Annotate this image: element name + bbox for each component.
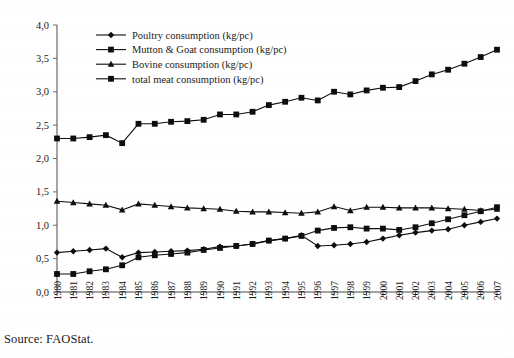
series-marker-0 — [331, 242, 337, 248]
series-marker-0 — [119, 254, 125, 260]
series-marker-1 — [396, 227, 402, 233]
series-marker-3 — [299, 95, 305, 101]
series-marker-3 — [87, 134, 93, 140]
series-marker-3 — [331, 89, 337, 95]
y-tick-label: 0,0 — [36, 287, 49, 298]
legend-label-2: Bovine consumption (kg/pc) — [132, 59, 253, 71]
series-marker-3 — [266, 102, 272, 108]
legend-label-1: Mutton & Goat consumption (kg/pc) — [132, 44, 287, 56]
x-tick-label: 1993 — [264, 281, 274, 300]
series-marker-1 — [119, 262, 125, 268]
series-marker-1 — [168, 251, 174, 257]
series-marker-1 — [347, 224, 353, 230]
legend-marker-3 — [108, 76, 114, 82]
series-marker-1 — [201, 247, 207, 253]
x-tick-label: 1982 — [85, 281, 95, 300]
x-tick-label: 1983 — [101, 281, 111, 300]
x-tick-label: 1994 — [281, 281, 291, 300]
y-tick-label: 3,5 — [36, 53, 49, 64]
series-marker-3 — [250, 109, 256, 115]
series-marker-3 — [70, 136, 76, 142]
x-tick-label: 1984 — [118, 281, 128, 300]
series-marker-3 — [494, 47, 500, 53]
x-tick-label: 1996 — [313, 281, 323, 300]
series-marker-3 — [217, 112, 223, 118]
series-marker-1 — [103, 266, 109, 272]
series-marker-3 — [282, 99, 288, 105]
series-marker-3 — [201, 117, 207, 123]
series-marker-1 — [429, 220, 435, 226]
legend-marker-1 — [108, 47, 114, 53]
series-marker-1 — [299, 233, 305, 239]
series-marker-3 — [168, 119, 174, 125]
x-tick-label: 2007 — [493, 281, 503, 300]
y-tick-label: 4,0 — [36, 20, 49, 31]
series-marker-0 — [70, 248, 76, 254]
series-marker-3 — [136, 121, 142, 127]
series-marker-0 — [445, 226, 451, 232]
x-tick-label: 1980 — [53, 281, 63, 300]
x-tick-label: 1999 — [362, 281, 372, 300]
y-tick-label: 2,5 — [36, 120, 49, 131]
series-marker-0 — [396, 232, 402, 238]
series-marker-3 — [54, 136, 60, 142]
series-marker-3 — [396, 84, 402, 90]
series-marker-1 — [217, 245, 223, 251]
series-marker-0 — [478, 219, 484, 225]
x-tick-label: 1985 — [134, 281, 144, 300]
series-marker-0 — [380, 235, 386, 241]
source-note: Source: FAOStat. — [4, 332, 94, 347]
y-tick-label: 1,0 — [36, 220, 49, 231]
series-marker-0 — [86, 247, 92, 253]
x-tick-label: 1990 — [216, 281, 226, 300]
series-marker-1 — [462, 212, 468, 218]
x-tick-label: 2003 — [427, 281, 437, 300]
series-marker-1 — [250, 241, 256, 247]
series-marker-3 — [119, 140, 125, 146]
series-marker-2 — [54, 198, 61, 204]
series-marker-3 — [413, 78, 419, 84]
line-chart: 0,00,51,01,52,02,53,03,54,01980198119821… — [0, 0, 514, 358]
x-tick-label: 1991 — [232, 281, 242, 300]
y-tick-label: 1,5 — [36, 186, 49, 197]
series-marker-1 — [364, 226, 370, 232]
x-tick-label: 1988 — [183, 281, 193, 300]
y-tick-label: 0,5 — [36, 253, 49, 264]
chart-figure: 0,00,51,01,52,02,53,03,54,01980198119821… — [0, 0, 514, 358]
series-marker-0 — [347, 241, 353, 247]
x-tick-label: 2000 — [379, 281, 389, 300]
series-marker-3 — [429, 71, 435, 77]
legend-label-0: Poultry consumption (kg/pc) — [132, 30, 253, 42]
series-marker-3 — [445, 67, 451, 73]
series-marker-1 — [413, 224, 419, 230]
series-marker-1 — [266, 238, 272, 244]
series-marker-0 — [363, 239, 369, 245]
x-tick-label: 1986 — [150, 281, 160, 300]
series-marker-0 — [461, 222, 467, 228]
series-marker-2 — [331, 203, 338, 209]
x-tick-label: 1992 — [248, 281, 258, 300]
x-tick-label: 1981 — [69, 281, 79, 300]
series-marker-3 — [233, 112, 239, 118]
legend-marker-0 — [108, 32, 114, 38]
series-marker-0 — [494, 215, 500, 221]
legend-label-3: total meat consumption (kg/pc) — [132, 74, 264, 86]
x-tick-label: 2005 — [460, 281, 470, 300]
series-marker-1 — [282, 236, 288, 242]
series-marker-0 — [315, 243, 321, 249]
series-marker-3 — [347, 92, 353, 98]
series-marker-3 — [315, 98, 321, 104]
series-marker-1 — [380, 226, 386, 232]
series-marker-3 — [462, 61, 468, 67]
x-tick-label: 1995 — [297, 281, 307, 300]
series-marker-2 — [135, 200, 142, 206]
series-marker-1 — [184, 250, 190, 256]
series-marker-1 — [445, 216, 451, 222]
series-marker-1 — [315, 228, 321, 234]
series-marker-3 — [380, 85, 386, 91]
x-tick-label: 1997 — [330, 281, 340, 300]
x-tick-label: 2004 — [444, 281, 454, 300]
x-tick-label: 2001 — [395, 281, 405, 300]
series-marker-1 — [331, 225, 337, 231]
series-marker-0 — [103, 245, 109, 251]
